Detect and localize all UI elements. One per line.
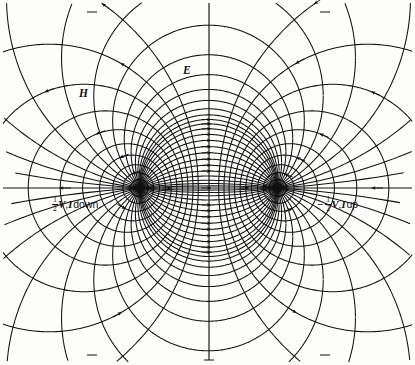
figure-canvas: 12V,I down − 12V,I up E H: [0, 0, 415, 365]
direction-arrows: [45, 0, 383, 317]
h-field-lines: [3, 3, 412, 361]
right-conductor-label: − 12V,I up: [317, 196, 358, 212]
h-field-label: H: [79, 88, 88, 100]
e-field-lines: [3, 3, 411, 363]
field-diagram-svg: [0, 0, 415, 365]
left-conductor-label: 12V,I down: [52, 196, 98, 212]
e-field-label: E: [183, 65, 191, 77]
axis-lines: [3, 3, 412, 360]
